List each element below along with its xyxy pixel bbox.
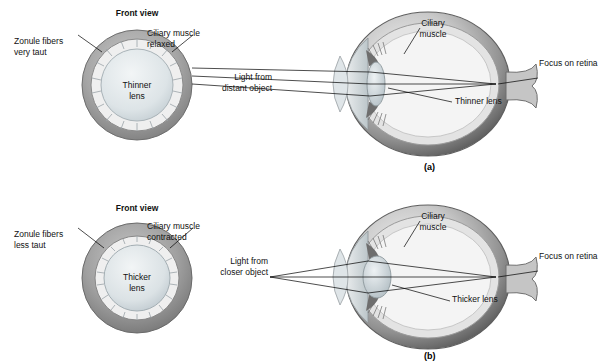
panel-b-thicker-lens-label: Thicker lens [452, 294, 522, 305]
panel-a-light-source-label: Light from distant object [186, 72, 272, 93]
panel-b-light-source-label: Light from closer object [182, 256, 268, 277]
panel-a-distant-vision: Front view [0, 0, 612, 181]
panel-a-ciliary-front-label: Ciliary muscle relaxed [147, 28, 233, 49]
panel-a-tag: (a) [424, 162, 435, 172]
panel-a-zonule-label: Zonule fibers very taut [14, 36, 94, 57]
panel-b-tag: (b) [424, 351, 436, 361]
panel-b-zonule-label: Zonule fibers less taut [14, 229, 94, 250]
panel-b-lens-front-label: Thicker lens [82, 272, 192, 293]
panel-a-lens-front-label: Thinner lens [82, 80, 192, 101]
panel-a-ciliary-side-label: Ciliary muscle [404, 18, 462, 39]
panel-a-focus-label: Focus on retina [539, 58, 612, 69]
panel-b-ciliary-side-label: Ciliary muscle [404, 211, 462, 232]
panel-b-front-view-title: Front view [82, 203, 192, 214]
panel-b-ciliary-front-label: Ciliary muscle contracted [147, 221, 233, 242]
panel-a-front-view-title: Front view [82, 8, 192, 19]
panel-b-focus-label: Focus on retina [539, 251, 612, 262]
panel-b-near-vision: Front view [0, 181, 612, 362]
panel-a-thinner-lens-label: Thinner lens [455, 96, 525, 107]
